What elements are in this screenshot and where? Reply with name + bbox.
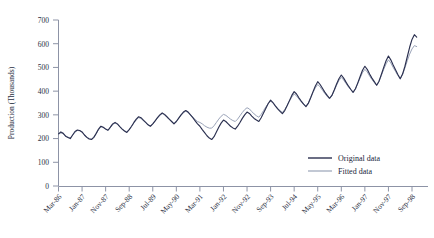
- y-tick-label: 100: [38, 158, 50, 167]
- y-tick-label: 600: [38, 40, 50, 49]
- y-tick-label: 400: [38, 87, 50, 96]
- legend-label-original-data: Original data: [338, 154, 380, 163]
- y-tick-label: 700: [38, 16, 50, 25]
- y-tick-label: 300: [38, 111, 50, 120]
- chart-figure: 0100200300400500600700 Mar-86Jan-87Nov-8…: [0, 0, 434, 238]
- y-tick-label: 200: [38, 134, 50, 143]
- y-tick-label: 0: [45, 182, 49, 191]
- legend-label-fitted-data: Fitted data: [338, 167, 372, 176]
- y-tick-label: 500: [38, 63, 50, 72]
- production-line-chart: 0100200300400500600700 Mar-86Jan-87Nov-8…: [0, 0, 434, 238]
- y-axis-title: Production (Thousands): [7, 66, 16, 139]
